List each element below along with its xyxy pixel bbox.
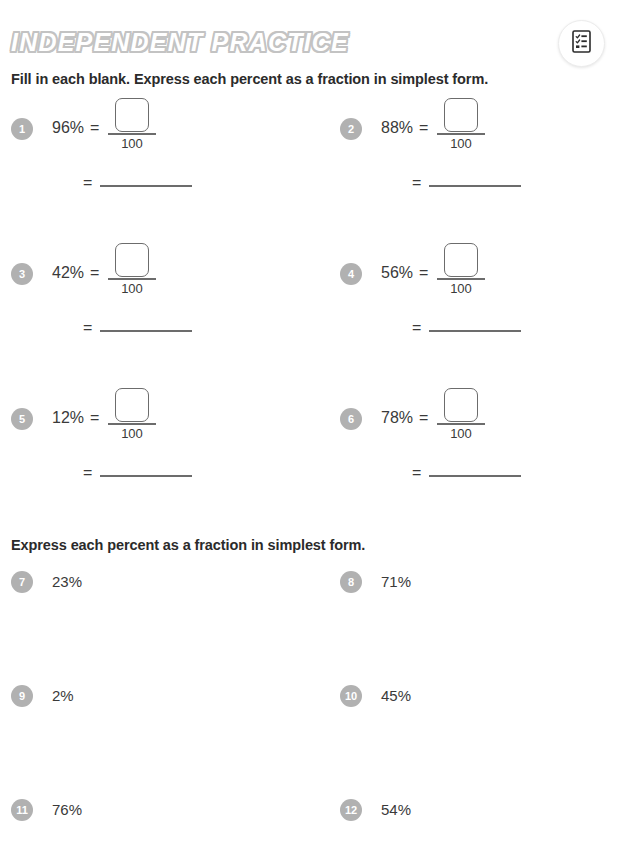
equals-sign: = (90, 119, 99, 137)
problem-percent-value: 76% (52, 801, 82, 818)
simplified-answer-row: = (83, 465, 192, 481)
answer-blank-line[interactable] (100, 475, 192, 477)
worksheet-icon (572, 30, 591, 57)
fraction-group: 100 (107, 98, 157, 151)
problem-percent-value: 12% (52, 409, 84, 427)
problem-number-badge: 7 (11, 571, 33, 593)
fraction-group: 100 (107, 243, 157, 296)
numerator-answer-box[interactable] (444, 388, 478, 422)
fraction-group: 100 (436, 98, 486, 151)
simplified-answer-row: = (412, 320, 521, 336)
problem-number-badge: 12 (340, 799, 362, 821)
problem-item: 3 42% = 100 = (11, 243, 311, 353)
numerator-answer-box[interactable] (115, 388, 149, 422)
fraction-bar (437, 133, 485, 135)
problem-number-badge: 8 (340, 571, 362, 593)
fraction-denominator: 100 (107, 281, 157, 296)
problem-percent-value: 78% (381, 409, 413, 427)
problem-percent-value: 56% (381, 264, 413, 282)
problem-number-badge: 10 (340, 685, 362, 707)
answer-blank-line[interactable] (429, 330, 521, 332)
numerator-answer-box[interactable] (444, 98, 478, 132)
problem-percent-value: 42% (52, 264, 84, 282)
problem-percent-value: 88% (381, 119, 413, 137)
problem-number-badge: 3 (11, 263, 33, 285)
list-item: 10 45% (340, 684, 600, 714)
problem-number-badge: 5 (11, 408, 33, 430)
fraction-denominator: 100 (436, 281, 486, 296)
equals-sign: = (412, 320, 421, 336)
problem-percent-value: 2% (52, 687, 74, 704)
problem-percent-value: 45% (381, 687, 411, 704)
answer-blank-line[interactable] (429, 475, 521, 477)
equals-sign: = (90, 409, 99, 427)
list-item: 11 76% (11, 798, 271, 828)
numerator-answer-box[interactable] (115, 243, 149, 277)
problem-percent-value: 23% (52, 573, 82, 590)
fraction-denominator: 100 (107, 136, 157, 151)
problem-number-badge: 9 (11, 685, 33, 707)
list-item: 7 23% (11, 570, 271, 600)
problem-percent-value: 96% (52, 119, 84, 137)
fraction-denominator: 100 (436, 426, 486, 441)
problem-percent-value: 54% (381, 801, 411, 818)
list-item: 12 54% (340, 798, 600, 828)
fraction-group: 100 (436, 243, 486, 296)
instruction-text-section-2: Express each percent as a fraction in si… (11, 537, 365, 553)
fraction-group: 100 (107, 388, 157, 441)
simplified-answer-row: = (83, 320, 192, 336)
answer-blank-line[interactable] (100, 185, 192, 187)
problem-number-badge: 6 (340, 408, 362, 430)
problem-number-badge: 2 (340, 118, 362, 140)
fraction-bar (108, 423, 156, 425)
fraction-bar (437, 423, 485, 425)
problem-item: 1 96% = 100 = (11, 98, 311, 208)
problem-item: 2 88% = 100 = (340, 98, 619, 208)
problem-number-badge: 4 (340, 263, 362, 285)
problem-item: 4 56% = 100 = (340, 243, 619, 353)
answer-blank-line[interactable] (429, 185, 521, 187)
simplified-answer-row: = (412, 175, 521, 191)
fraction-denominator: 100 (436, 136, 486, 151)
equals-sign: = (419, 264, 428, 282)
equals-sign: = (419, 409, 428, 427)
problem-item: 6 78% = 100 = (340, 388, 619, 498)
problem-item: 5 12% = 100 = (11, 388, 311, 498)
worksheet-toolbar-button[interactable] (558, 20, 605, 67)
fraction-bar (437, 278, 485, 280)
simplified-answer-row: = (412, 465, 521, 481)
problem-number-badge: 1 (11, 118, 33, 140)
equals-sign: = (83, 175, 92, 191)
problem-percent-value: 71% (381, 573, 411, 590)
fraction-bar (108, 133, 156, 135)
equals-sign: = (419, 119, 428, 137)
equals-sign: = (412, 465, 421, 481)
list-item: 9 2% (11, 684, 271, 714)
instruction-text-section-1: Fill in each blank. Express each percent… (11, 71, 488, 87)
fraction-denominator: 100 (107, 426, 157, 441)
numerator-answer-box[interactable] (444, 243, 478, 277)
equals-sign: = (83, 320, 92, 336)
answer-blank-line[interactable] (100, 330, 192, 332)
fraction-bar (108, 278, 156, 280)
list-item: 8 71% (340, 570, 600, 600)
numerator-answer-box[interactable] (115, 98, 149, 132)
problem-number-badge: 11 (11, 799, 33, 821)
equals-sign: = (412, 175, 421, 191)
page-title: INDEPENDENT PRACTICE (11, 28, 349, 57)
simplified-answer-row: = (83, 175, 192, 191)
equals-sign: = (83, 465, 92, 481)
equals-sign: = (90, 264, 99, 282)
fraction-group: 100 (436, 388, 486, 441)
